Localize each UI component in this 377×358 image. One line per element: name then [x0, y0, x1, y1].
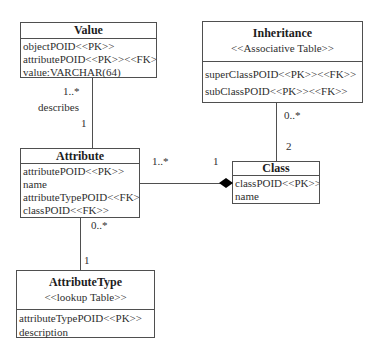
attribute-compartment: attributePOID<<PK>> name attributeTypePO… [21, 164, 139, 217]
attribute-line: classPOID<<PK>> [235, 177, 317, 190]
class-box-value: Value objectPOID<<PK>> attributePOID<<PK… [20, 22, 157, 78]
class-box-attribute: Attribute attributePOID<<PK>> name attri… [20, 148, 140, 218]
attribute-compartment: objectPOID<<PK>> attributePOID<<PK>><<FK… [21, 39, 156, 79]
association-line-value-attribute [92, 78, 93, 148]
multiplicity-class-side: 1 [213, 155, 219, 167]
uml-class-diagram: Value objectPOID<<PK>> attributePOID<<PK… [0, 0, 377, 358]
class-title-class: Class [233, 162, 319, 175]
class-header: Inheritance <<Associative Table>> [203, 22, 362, 62]
attribute-line: classPOID<<FK>> [23, 204, 137, 217]
attribute-line: attributeTypePOID<<PK>> [19, 311, 152, 325]
multiplicity-value-side: 1..* [63, 85, 80, 97]
attribute-compartment: attributeTypePOID<<PK>> description [17, 310, 154, 339]
attribute-line: name [235, 190, 317, 203]
multiplicity-attribute-side: 0..* [91, 219, 108, 231]
multiplicity-attributetype-side: 1 [84, 254, 90, 266]
composition-diamond-icon [219, 178, 233, 188]
attribute-line: subClassPOID<<PK>><<FK>> [205, 83, 360, 100]
class-title-inheritance: Inheritance [203, 25, 362, 41]
attribute-compartment: superClassPOID<<PK>><<FK>> subClassPOID<… [203, 62, 362, 100]
attribute-line: attributePOID<<PK>> [23, 165, 137, 178]
class-title-value: Value [21, 23, 156, 38]
attribute-line: objectPOID<<PK>> [23, 40, 154, 53]
multiplicity-inheritance-side: 0..* [284, 109, 301, 121]
class-header: Attribute [21, 149, 139, 164]
multiplicity-class-side: 2 [286, 140, 292, 152]
attribute-line: value:VARCHAR(64) [23, 66, 154, 79]
attribute-compartment: classPOID<<PK>> name [233, 176, 319, 203]
association-role-label: describes [38, 101, 79, 113]
class-title-attribute: Attribute [21, 149, 139, 163]
attribute-line: attributeTypePOID<<FK>> [23, 191, 137, 204]
class-stereotype: <<lookup Table>> [17, 290, 154, 304]
multiplicity-attribute-side: 1..* [152, 155, 169, 167]
class-header: Class [233, 162, 319, 176]
class-box-class: Class classPOID<<PK>> name [232, 161, 320, 204]
attribute-line: superClassPOID<<PK>><<FK>> [205, 66, 360, 83]
association-line-inheritance-class [276, 103, 277, 161]
class-box-inheritance: Inheritance <<Associative Table>> superC… [202, 21, 363, 103]
class-box-attributetype: AttributeType <<lookup Table>> attribute… [16, 270, 155, 338]
class-header: AttributeType <<lookup Table>> [17, 271, 154, 310]
class-title-attributetype: AttributeType [17, 274, 154, 290]
association-line-attribute-attributetype [80, 218, 81, 270]
attribute-line: description [19, 325, 152, 339]
class-stereotype: <<Associative Table>> [203, 41, 362, 56]
attribute-line: attributePOID<<PK>><<FK>> [23, 53, 154, 66]
class-header: Value [21, 23, 156, 39]
association-line-attribute-class [140, 183, 222, 184]
multiplicity-attribute-side: 1 [81, 117, 87, 129]
attribute-line: name [23, 178, 137, 191]
